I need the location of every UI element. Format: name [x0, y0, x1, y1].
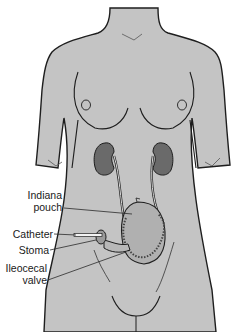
left-kidney	[94, 143, 114, 175]
torso-outline	[36, 8, 230, 332]
right-kidney	[153, 143, 173, 175]
catheter-tube	[74, 234, 102, 237]
indiana-pouch	[122, 202, 166, 264]
label-text: Stoma	[19, 244, 49, 256]
label-text: Catheter	[13, 228, 53, 240]
label-indiana-pouch: Indiana pouch	[28, 189, 62, 213]
label-stoma: Stoma	[19, 244, 49, 256]
stoma	[96, 230, 106, 244]
label-ileocecal-valve: Ileocecal valve	[6, 262, 47, 286]
label-text: pouch	[28, 201, 62, 213]
label-text: Indiana	[28, 189, 62, 201]
label-catheter: Catheter	[13, 228, 53, 240]
label-text: valve	[6, 274, 47, 286]
label-text: Ileocecal	[6, 262, 47, 274]
